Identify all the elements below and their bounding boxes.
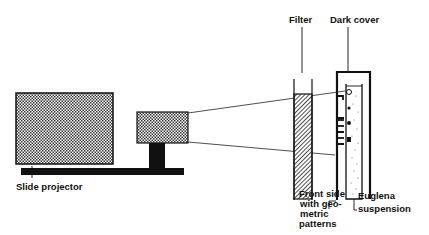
label-euglena-2: suspension [358, 204, 411, 214]
light-beam-bottom [188, 142, 335, 155]
base-rail [21, 168, 184, 175]
lens-post [149, 143, 165, 169]
front-side-patterns [337, 90, 352, 201]
light-beam-top [188, 91, 345, 113]
slide-projector [16, 93, 113, 164]
projector-lens [137, 112, 188, 143]
label-slide-projector: Slide projector [16, 182, 83, 192]
label-euglena-1: Euglena [358, 191, 395, 201]
label-front-side-4: patterns [299, 219, 336, 229]
label-filter: Filter [289, 15, 312, 25]
label-dark-cover: Dark cover [330, 15, 379, 25]
filter [294, 79, 312, 200]
euglena-leader [354, 199, 357, 210]
